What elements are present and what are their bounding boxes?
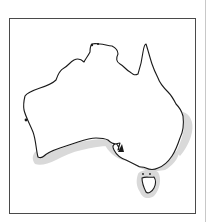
australia-distribution-map: [0, 0, 208, 222]
